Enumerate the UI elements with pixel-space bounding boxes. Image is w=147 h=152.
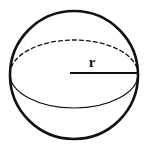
sphere-diagram-canvas: r <box>0 0 147 152</box>
figure-background <box>0 0 147 152</box>
radius-label: r <box>89 54 96 70</box>
sphere-figure: r <box>0 0 147 152</box>
